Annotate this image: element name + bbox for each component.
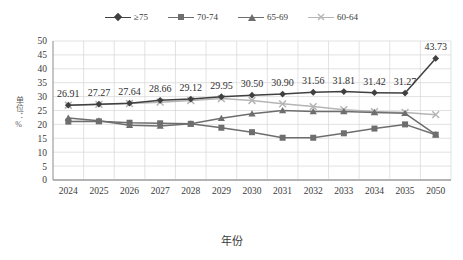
legend-marker-triangle-icon bbox=[238, 12, 264, 22]
legend-marker-diamond-icon bbox=[105, 12, 131, 22]
y-tick-label: 30 bbox=[38, 92, 48, 102]
legend-label: 60-64 bbox=[337, 13, 358, 22]
data-label: 31.56 bbox=[302, 75, 325, 86]
y-tick-label: 10 bbox=[38, 148, 48, 158]
y-tick-label: 25 bbox=[38, 106, 48, 116]
x-tick-label: 2034 bbox=[365, 186, 384, 196]
legend-label: 70-74 bbox=[197, 13, 218, 22]
data-label: 31.81 bbox=[333, 75, 356, 86]
y-tick-label: 5 bbox=[42, 162, 47, 172]
chart-canvas: 0510152025303540455020242025202620272028… bbox=[0, 28, 463, 210]
legend-label: 65-69 bbox=[267, 13, 288, 22]
legend-item-60-64: 60-64 bbox=[308, 12, 358, 22]
data-label: 27.27 bbox=[88, 87, 111, 98]
x-tick-label: 2050 bbox=[426, 186, 445, 196]
cross-icon bbox=[317, 13, 325, 21]
x-tick-label: 2029 bbox=[212, 186, 231, 196]
data-point-diamond bbox=[310, 89, 317, 96]
data-point-diamond bbox=[371, 89, 378, 96]
y-tick-label: 0 bbox=[42, 175, 47, 185]
data-point-square bbox=[341, 130, 347, 136]
x-tick-label: 2024 bbox=[59, 186, 78, 196]
data-label: 43.73 bbox=[424, 41, 447, 52]
x-tick-label: 2025 bbox=[89, 186, 108, 196]
x-tick-label: 2032 bbox=[304, 186, 323, 196]
y-tick-label: 35 bbox=[38, 78, 48, 88]
data-label: 26.91 bbox=[57, 88, 80, 99]
data-label: 29.12 bbox=[180, 82, 203, 93]
series-70-74 bbox=[65, 118, 438, 140]
y-tick-label: 20 bbox=[38, 120, 48, 130]
y-tick-label: 50 bbox=[38, 36, 48, 46]
data-point-square bbox=[310, 135, 316, 141]
legend-item-65-69: 65-69 bbox=[238, 12, 288, 22]
data-label: 28.66 bbox=[149, 83, 172, 94]
data-point-square bbox=[218, 125, 224, 131]
y-axis-title: 单位：% bbox=[14, 96, 22, 129]
data-label: 31.42 bbox=[363, 76, 386, 87]
legend-item-70-74: 70-74 bbox=[168, 12, 218, 22]
data-point-square bbox=[371, 126, 377, 132]
x-tick-label: 2028 bbox=[181, 186, 200, 196]
x-tick-label: 2035 bbox=[396, 186, 415, 196]
data-label: 31.27 bbox=[394, 76, 417, 87]
legend-marker-cross-icon bbox=[308, 12, 334, 22]
data-label: 27.64 bbox=[118, 86, 141, 97]
data-label: 30.90 bbox=[271, 77, 294, 88]
data-label: 29.95 bbox=[210, 80, 233, 91]
x-tick-label: 2031 bbox=[273, 186, 292, 196]
line-chart: ≥75 70-74 65-69 60-64 bbox=[0, 0, 463, 260]
x-tick-label: 2030 bbox=[243, 186, 262, 196]
legend-label: ≥75 bbox=[134, 13, 148, 22]
x-tick-label: 2033 bbox=[334, 186, 353, 196]
y-tick-label: 15 bbox=[38, 134, 48, 144]
x-tick-label: 2027 bbox=[151, 186, 170, 196]
data-label: 30.50 bbox=[241, 78, 264, 89]
plot-area: 0510152025303540455020242025202620272028… bbox=[0, 28, 463, 210]
data-point-diamond bbox=[340, 88, 347, 95]
legend-marker-square-icon bbox=[168, 12, 194, 22]
x-axis-title: 年份 bbox=[0, 232, 463, 248]
chart-legend: ≥75 70-74 65-69 60-64 bbox=[0, 12, 463, 22]
y-tick-label: 40 bbox=[38, 64, 48, 74]
data-point-square bbox=[249, 129, 255, 135]
x-tick-label: 2026 bbox=[120, 186, 139, 196]
y-tick-label: 45 bbox=[38, 50, 48, 60]
data-point-square bbox=[402, 121, 408, 127]
legend-item-ge75: ≥75 bbox=[105, 12, 148, 22]
data-point-square bbox=[280, 135, 286, 141]
